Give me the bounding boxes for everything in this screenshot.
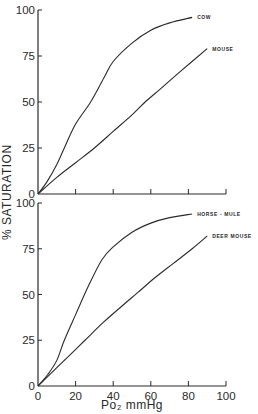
y-tick-label: 75 — [22, 50, 35, 62]
y-tick-label: 100 — [16, 197, 35, 209]
y-axis-title: % SATURATION — [0, 144, 14, 240]
y-tick-label: 25 — [22, 142, 35, 154]
x-tick-label: 0 — [35, 390, 41, 402]
top-panel-cow-mouse: 0255075100COWMOUSE — [16, 4, 234, 200]
y-tick-label: 75 — [22, 243, 35, 255]
y-tick-label: 25 — [22, 334, 35, 346]
y-tick-label: 50 — [22, 289, 35, 301]
oxygen-dissociation-chart: 0255075100COWMOUSE 025507510002040608010… — [0, 0, 258, 414]
x-tick-label: 80 — [182, 390, 195, 402]
series-label: DEER MOUSE — [212, 233, 252, 239]
bottom-panel-horse-deer-mouse: 0255075100020406080100HORSE - MULEDEER M… — [16, 197, 252, 402]
series-curve-horse-mule — [38, 214, 192, 386]
series-label: COW — [197, 14, 211, 20]
series-curve-deer-mouse — [38, 236, 207, 386]
x-axis-title: Po₂ mmHg — [101, 398, 163, 412]
y-tick-label: 50 — [22, 96, 35, 108]
series-curve-cow — [38, 17, 192, 194]
x-tick-label: 20 — [69, 390, 82, 402]
x-tick-label: 100 — [216, 390, 235, 402]
y-tick-label: 100 — [16, 4, 35, 16]
series-curve-mouse — [38, 49, 207, 194]
series-label: HORSE - MULE — [197, 211, 241, 217]
series-label: MOUSE — [212, 46, 233, 52]
